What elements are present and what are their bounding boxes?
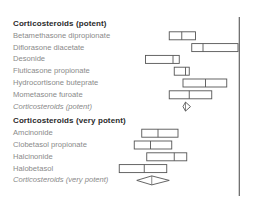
ci-box: [169, 32, 195, 40]
ci-box: [147, 153, 187, 161]
ci-box: [142, 129, 178, 137]
ci-box: [183, 79, 227, 87]
ci-box: [169, 91, 212, 99]
ci-box: [146, 55, 180, 63]
ci-box: [174, 67, 189, 75]
forest-plot: [0, 0, 253, 202]
pooled-diamond: [183, 102, 191, 111]
ci-box: [119, 165, 167, 173]
ci-box: [192, 44, 238, 52]
ci-box: [134, 141, 172, 149]
pooled-diamond: [137, 176, 170, 185]
